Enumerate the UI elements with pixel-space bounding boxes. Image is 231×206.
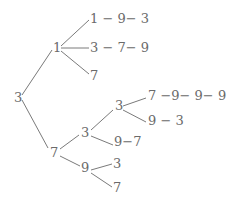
node-7: 7 (50, 146, 58, 160)
edge-9-to-7 (91, 173, 112, 187)
node-7-leaf: 7 (90, 69, 98, 83)
node-9-child-3: 3 (113, 157, 121, 171)
edge-3-to-7999 (123, 98, 146, 106)
node-7-9-9-9: 7 −9− 9− 9 (148, 89, 226, 103)
edge-3-to-97 (91, 136, 113, 145)
edge-9-to-3 (91, 164, 112, 170)
edge-7-to-3 (60, 135, 79, 149)
node-9-3: 9 − 3 (148, 114, 184, 128)
edge-3-to-93 (123, 110, 146, 122)
node-3-upper: 3 (115, 99, 123, 113)
node-3-mid: 3 (81, 126, 89, 140)
edge-1-to-193 (61, 20, 89, 46)
node-9: 9 (81, 161, 89, 175)
edge-root-to-7 (22, 100, 48, 148)
node-1: 1 (53, 41, 61, 55)
edge-3-to-3 (91, 110, 113, 130)
node-1-9-3: 1 − 9− 3 (90, 12, 149, 26)
tree-diagram: 3 1 1 − 9− 3 3 − 7− 9 7 7 3 3 7 −9− 9− 9… (0, 0, 231, 206)
node-9-7: 9−7 (114, 135, 141, 149)
node-root: 3 (14, 91, 22, 105)
edge-root-to-1 (22, 50, 52, 95)
node-9-child-7: 7 (113, 181, 121, 195)
edge-1-to-7 (61, 51, 89, 74)
node-3-7-9: 3 − 7− 9 (90, 41, 149, 55)
edge-7-to-9 (60, 156, 80, 166)
